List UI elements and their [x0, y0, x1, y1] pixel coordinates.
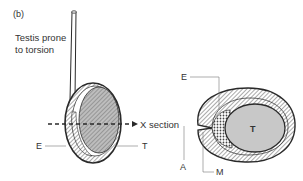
label-M: M: [216, 167, 224, 177]
label-T-right: T: [250, 124, 256, 134]
label-E-left: E: [36, 141, 42, 151]
section-label: X section: [140, 119, 179, 130]
diagram-canvas: (b) Testis prone to torsion X section E …: [0, 0, 303, 181]
panel-label: (b): [13, 9, 24, 19]
label-T-left: T: [142, 141, 148, 151]
right-cross-section-figure: T E A M: [180, 72, 295, 177]
testis: [79, 87, 119, 153]
label-A: A: [180, 162, 186, 172]
spermatic-cord: [70, 12, 76, 100]
section-arrow-icon: [132, 121, 138, 127]
caption-line-1: Testis prone: [15, 32, 66, 43]
label-E-right: E: [181, 72, 187, 82]
caption-line-2: to torsion: [15, 44, 54, 55]
